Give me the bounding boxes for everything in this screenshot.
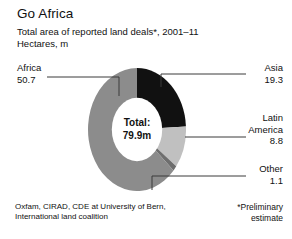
callout-asia-value: 19.3 xyxy=(265,74,284,86)
callout-other: Other 1.1 xyxy=(259,163,283,186)
callout-africa: Africa 50.7 xyxy=(17,62,41,85)
footnote-line-1: *Preliminary xyxy=(237,202,283,213)
page-title: Go Africa xyxy=(17,6,73,21)
chart-subtitle: Total area of reported land deals*, 2001… xyxy=(17,26,199,38)
callout-asia-label: Asia xyxy=(265,62,284,74)
chart-page: Go Africa Total area of reported land de… xyxy=(0,0,292,239)
callout-africa-label: Africa xyxy=(17,62,41,74)
source-note: Oxfam, CIRAD, CDE at University of Bern,… xyxy=(15,202,175,222)
callout-other-value: 1.1 xyxy=(259,175,283,187)
callout-latin-america: Latin America 8.8 xyxy=(248,112,283,147)
footnote: *Preliminary estimate xyxy=(237,202,283,223)
donut-svg xyxy=(88,68,186,191)
callout-latin-america-label2: America xyxy=(248,124,283,136)
callout-asia: Asia 19.3 xyxy=(265,62,284,85)
donut-hole xyxy=(112,98,162,161)
callout-latin-america-value: 8.8 xyxy=(248,135,283,147)
footnote-line-2: estimate xyxy=(237,213,283,224)
chart-units: Hectares, m xyxy=(17,38,68,50)
donut-chart: Total: 79.9m xyxy=(88,68,186,191)
callout-latin-america-label: Latin xyxy=(248,112,283,124)
callout-other-label: Other xyxy=(259,163,283,175)
callout-africa-value: 50.7 xyxy=(17,74,41,86)
